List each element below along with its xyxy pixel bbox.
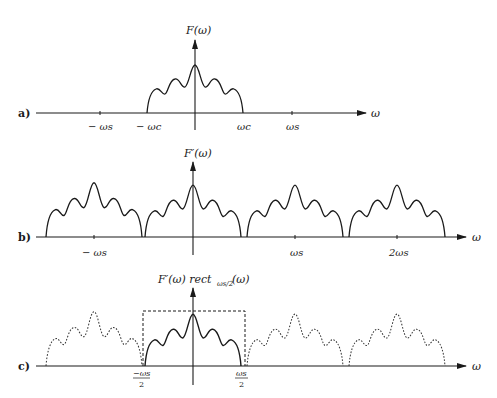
y-axis-label-tail: (ω) <box>232 273 250 286</box>
panel-b: b) F′(ω) ω − ωs ωs 2ωs <box>18 147 481 258</box>
y-axis-label: F′(ω) rect <box>157 273 212 286</box>
tick-label-ws: ωs <box>290 247 303 258</box>
y-axis-label: F(ω) <box>185 24 211 37</box>
spectrum-replica-dotted <box>247 314 343 366</box>
rect-filter-window <box>143 311 245 366</box>
panel-a-label: a) <box>18 107 30 120</box>
tick-label-ws: ωs <box>286 121 299 132</box>
tick-label-ws-den: 2 <box>239 380 244 389</box>
tick-label-wc: ωc <box>237 121 251 132</box>
sampling-diagram: a) F(ω) ω − ωs − ωc ωc ωs b) F′(ω) ω − ω… <box>0 0 497 398</box>
tick-label-2ws: 2ωs <box>388 247 409 258</box>
tick-label-neg-ws: − ωs <box>88 121 113 132</box>
tick-label-neg-ws-den: 2 <box>139 380 144 389</box>
x-axis-label: ω <box>472 231 481 244</box>
x-axis-label: ω <box>472 360 481 373</box>
y-axis-label: F′(ω) <box>183 147 212 160</box>
panel-c-label: c) <box>18 360 30 373</box>
tick-label-neg-ws-num: −ωs <box>133 369 150 378</box>
spectrum-replica-dotted <box>349 314 445 366</box>
x-axis-label: ω <box>371 107 380 120</box>
spectrum-replica <box>349 185 445 237</box>
tick-label-neg-ws: − ωs <box>82 247 107 258</box>
panel-c: c) F′(ω) rect ωs/2 (ω) ω −ωs 2 ωs 2 <box>18 273 481 389</box>
tick-label-neg-wc: − ωc <box>136 121 162 132</box>
spectrum-replica <box>46 183 142 237</box>
tick-label-ws-num: ωs <box>236 369 247 378</box>
panel-b-label: b) <box>18 231 31 244</box>
spectrum-replica <box>247 185 343 237</box>
spectrum-replica-dotted <box>46 312 142 366</box>
panel-a: a) F(ω) ω − ωs − ωc ωc ωs <box>18 24 380 132</box>
